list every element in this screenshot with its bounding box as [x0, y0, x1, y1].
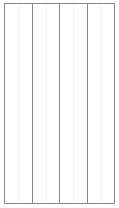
column-2: [33, 4, 61, 203]
column-guide-line: [46, 4, 47, 203]
column-guide-line: [73, 4, 74, 203]
column-1: [5, 4, 33, 203]
column-grid-frame: [4, 3, 115, 204]
column-4: [88, 4, 115, 203]
column-3: [60, 4, 88, 203]
column-guide-line: [18, 4, 19, 203]
column-guide-line: [101, 4, 102, 203]
